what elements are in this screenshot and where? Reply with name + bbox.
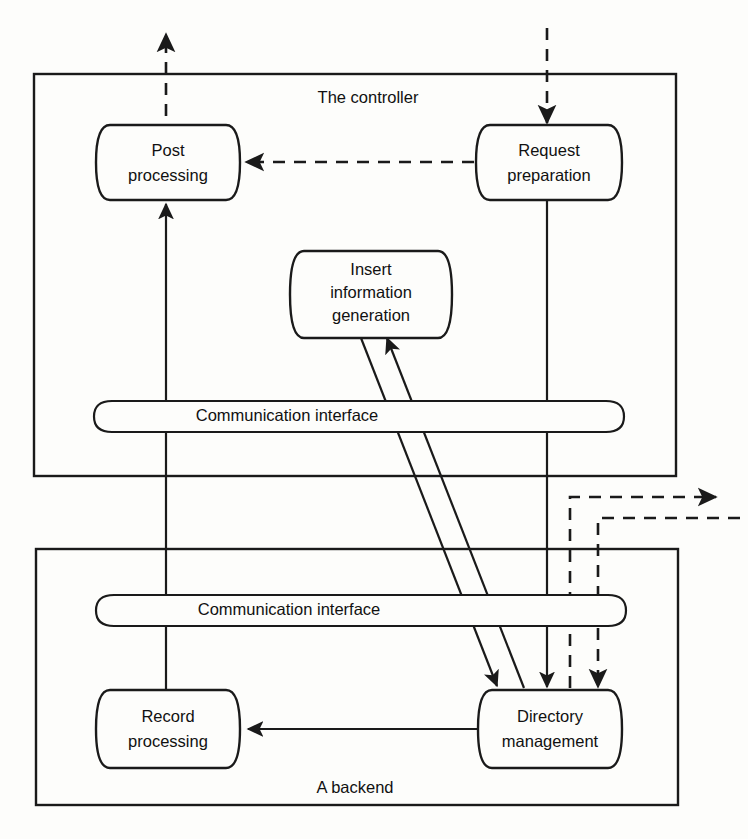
node-insert-information-generation-label-line2: information — [330, 283, 412, 301]
node-directory-management — [478, 690, 622, 768]
node-directory-management-label-line2: management — [502, 732, 599, 750]
flow-insert-to-directory — [361, 338, 497, 686]
flow-directory-out-right — [570, 497, 716, 688]
controller-frame-label: The controller — [318, 88, 419, 106]
node-request-preparation — [476, 125, 622, 200]
communication-interface-backend-label: Communication interface — [198, 600, 381, 618]
node-record-processing-label-line2: processing — [128, 732, 208, 750]
node-post-processing — [96, 125, 240, 200]
flow-directory-to-insert — [387, 338, 524, 688]
node-insert-information-generation-label-line1: Insert — [350, 260, 392, 278]
node-record-processing-label-line1: Record — [141, 707, 194, 725]
diagram-canvas: The controller A backend Communication i… — [0, 0, 748, 839]
node-post-processing-label-line2: processing — [128, 166, 208, 184]
architecture-diagram: The controller A backend Communication i… — [0, 0, 748, 839]
node-request-preparation-label-line2: preparation — [507, 166, 590, 184]
node-record-processing — [96, 690, 240, 768]
backend-frame-label: A backend — [316, 778, 393, 796]
node-insert-information-generation-label-line3: generation — [332, 306, 410, 324]
node-post-processing-label-line1: Post — [151, 141, 184, 159]
node-request-preparation-label-line1: Request — [518, 141, 580, 159]
communication-interface-controller-label: Communication interface — [196, 406, 379, 424]
node-directory-management-label-line1: Directory — [517, 707, 584, 725]
